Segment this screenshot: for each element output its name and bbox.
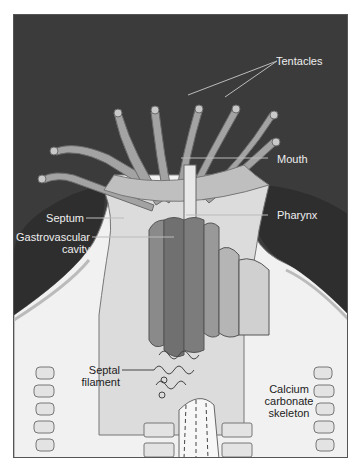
label-septal-line1: Septal bbox=[64, 364, 120, 376]
label-gastrovascular-line1: Gastrovascular bbox=[14, 231, 90, 243]
label-pharynx: Pharynx bbox=[277, 209, 317, 221]
diagram-frame: Tentacles Mouth Pharynx Septum Gastrovas… bbox=[13, 14, 348, 458]
label-calcium-line3: skeleton bbox=[259, 407, 319, 419]
label-calcium-line1: Calcium bbox=[259, 383, 319, 395]
label-mouth: Mouth bbox=[277, 153, 308, 165]
label-calcium-line2: carbonate bbox=[259, 395, 319, 407]
label-gastrovascular-cavity: Gastrovascular cavity bbox=[14, 231, 90, 255]
label-septum: Septum bbox=[34, 212, 84, 224]
label-gastrovascular-line2: cavity bbox=[14, 243, 90, 255]
label-tentacles: Tentacles bbox=[276, 55, 322, 67]
label-septal-line2: filament bbox=[64, 376, 120, 388]
label-septal-filament: Septal filament bbox=[64, 364, 120, 388]
label-calcium-carbonate-skeleton: Calcium carbonate skeleton bbox=[259, 383, 319, 419]
